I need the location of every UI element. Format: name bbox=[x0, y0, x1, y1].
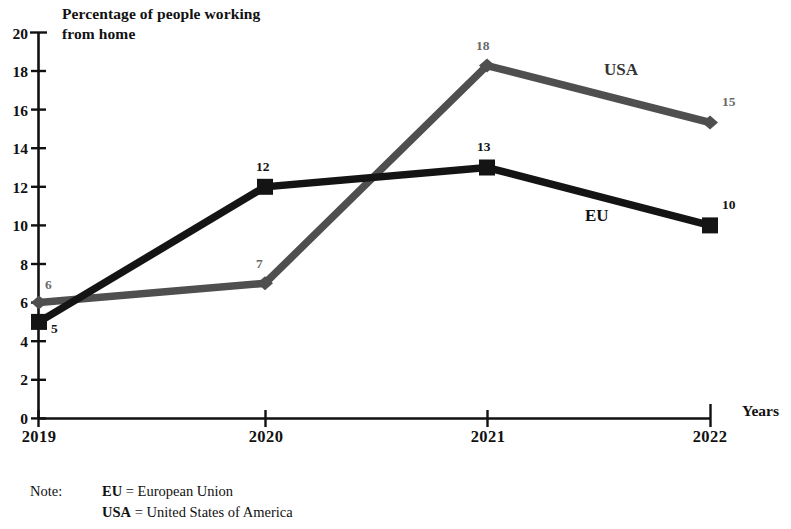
value-label-usa-2019: 6 bbox=[45, 278, 52, 292]
x-tick-label-2020: 2020 bbox=[226, 429, 306, 446]
series-label-eu: EU bbox=[585, 207, 609, 224]
note-block: Note: EU = European Union USA = United S… bbox=[30, 481, 630, 522]
series-line-usa bbox=[39, 66, 710, 303]
chart-plot-area bbox=[0, 0, 791, 529]
note-equals-usa: = bbox=[131, 504, 146, 520]
x-tick-label-2019: 2019 bbox=[0, 429, 79, 446]
note-row-eu: Note: EU = European Union bbox=[30, 481, 630, 502]
value-label-usa-2022: 15 bbox=[722, 95, 736, 109]
series-line-eu bbox=[39, 168, 710, 322]
marker-usa-2019 bbox=[31, 296, 47, 310]
y-tick-label-0: 0 bbox=[0, 411, 28, 427]
y-tick-label-16: 16 bbox=[0, 103, 28, 119]
note-row-usa: USA = United States of America bbox=[30, 502, 630, 523]
x-tick-label-2021: 2021 bbox=[448, 429, 528, 446]
note-label: Note: bbox=[30, 481, 102, 502]
note-expansion-usa: United States of America bbox=[146, 504, 292, 520]
note-abbr-usa: USA bbox=[102, 504, 131, 520]
value-label-usa-2021: 18 bbox=[476, 39, 490, 53]
x-tick-label-2022: 2022 bbox=[670, 429, 750, 446]
note-text-eu: EU = European Union bbox=[102, 481, 233, 502]
x-axis-title: Years bbox=[742, 402, 779, 420]
note-expansion-eu: European Union bbox=[138, 483, 233, 499]
value-label-eu-2019: 5 bbox=[51, 322, 58, 336]
marker-eu-2022 bbox=[702, 217, 718, 233]
marker-eu-2021 bbox=[479, 160, 495, 176]
value-label-eu-2020: 12 bbox=[256, 160, 270, 174]
y-tick-label-14: 14 bbox=[0, 141, 28, 157]
y-tick-label-8: 8 bbox=[0, 257, 28, 273]
value-label-eu-2022: 10 bbox=[722, 198, 736, 212]
y-tick-label-4: 4 bbox=[0, 334, 28, 350]
y-tick-label-2: 2 bbox=[0, 372, 28, 388]
y-tick-label-20: 20 bbox=[0, 26, 28, 42]
y-tick-label-12: 12 bbox=[0, 180, 28, 196]
note-equals-eu: = bbox=[122, 483, 137, 499]
note-text-usa: USA = United States of America bbox=[102, 502, 293, 523]
note-abbr-eu: EU bbox=[102, 483, 122, 499]
value-label-usa-2020: 7 bbox=[256, 257, 263, 271]
value-label-eu-2021: 13 bbox=[477, 140, 491, 154]
y-tick-label-6: 6 bbox=[0, 295, 28, 311]
series-markers-eu bbox=[31, 160, 718, 330]
series-label-usa: USA bbox=[604, 61, 638, 78]
chart-container: Percentage of people working from home bbox=[0, 0, 791, 529]
marker-eu-2019 bbox=[31, 314, 47, 330]
y-tick-label-18: 18 bbox=[0, 64, 28, 80]
y-tick-label-10: 10 bbox=[0, 218, 28, 234]
marker-eu-2020 bbox=[257, 179, 273, 195]
x-axis-ticks bbox=[39, 404, 711, 427]
